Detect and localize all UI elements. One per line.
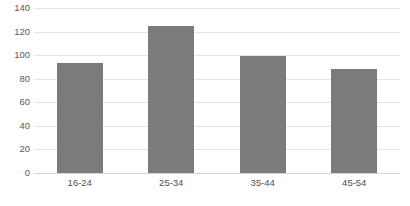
y-tick-label: 0 xyxy=(25,168,30,178)
bar xyxy=(331,69,377,173)
y-tick-label: 60 xyxy=(19,98,30,108)
bar-chart: 140 120 100 80 60 40 20 0 16-2425-3435-4… xyxy=(0,0,410,206)
x-tick-label: 45-54 xyxy=(342,178,366,188)
x-tick-label: 35-44 xyxy=(251,178,275,188)
bar xyxy=(148,26,194,173)
bar xyxy=(57,63,103,173)
x-tick-label: 25-34 xyxy=(159,178,183,188)
y-tick-label: 120 xyxy=(14,27,30,37)
plot-area xyxy=(34,8,400,173)
y-tick-label: 80 xyxy=(19,74,30,84)
bars-layer xyxy=(34,8,400,173)
x-tick-label: 16-24 xyxy=(68,178,92,188)
bar xyxy=(240,56,286,173)
y-tick-label: 40 xyxy=(19,121,30,131)
y-tick-label: 140 xyxy=(14,3,30,13)
x-axis-tick-labels: 16-2425-3435-4445-54 xyxy=(34,178,400,198)
y-tick-label: 20 xyxy=(19,145,30,155)
y-axis-tick-labels: 140 120 100 80 60 40 20 0 xyxy=(0,0,30,206)
gridline xyxy=(34,173,400,174)
y-tick-label: 100 xyxy=(14,50,30,60)
